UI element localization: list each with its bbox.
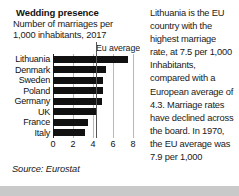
category-axis-labels: LithuaniaDenmarkSwedenPolandGermanyUKFra… [0,54,52,138]
bar-italy [53,129,85,136]
bar-france [53,119,88,126]
category-label-uk: UK [38,107,50,117]
description-column: Lithuania is the EU country with the hig… [150,0,239,186]
category-label-italy: Italy [34,128,50,138]
category-label-poland: Poland [23,86,50,96]
bar-uk [53,108,97,115]
gridline-6 [113,54,114,138]
chart-column: Wedding presence Number of marriages per… [0,0,150,186]
chart-subtitle-line-1: Number of marriages per [13,19,113,31]
infographic-panel: Wedding presence Number of marriages per… [0,0,239,186]
category-label-lithuania: Lithuania [15,54,50,64]
tick-label-8: 8 [130,139,135,149]
eu-average-line [96,42,97,138]
plot-area [53,54,141,138]
tick-label-6: 6 [110,139,115,149]
tick-label-0: 0 [50,139,55,149]
description-text: Lithuania is the EU country with the hig… [150,7,236,164]
bar-chart: LithuaniaDenmarkSwedenPolandGermanyUKFra… [0,54,150,154]
gridline-8 [133,54,134,138]
category-label-sweden: Sweden [19,75,50,85]
tick-label-2: 2 [70,139,75,149]
category-label-france: France [23,117,50,127]
page-title: Wedding presence [16,7,99,18]
category-label-germany: Germany [14,96,50,106]
source-caption: Source: Eurostat [12,164,80,174]
category-label-denmark: Denmark [15,65,50,75]
eu-average-annotation-label: Eu average [60,43,140,53]
bar-denmark [53,66,106,73]
bar-lithuania [53,56,128,63]
page-bottom-strip [0,186,239,196]
value-axis-ticks: 02468 [53,138,141,152]
tick-label-4: 4 [90,139,95,149]
bar-germany [53,98,102,105]
chart-subtitle-line-2: 1,000 inhabitants, 2017 [13,30,106,40]
